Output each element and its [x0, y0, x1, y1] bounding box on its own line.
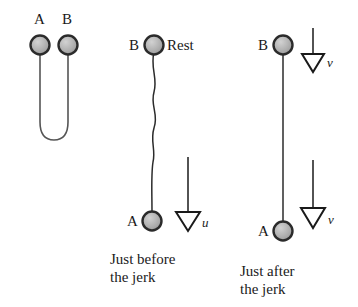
ball-a-middle — [143, 212, 162, 231]
physics-jerk-diagram: A B B Rest A u Just before the jerk B v … — [0, 0, 358, 307]
folded-string — [40, 46, 68, 140]
velocity-arrow-v-lower — [301, 160, 325, 228]
ball-b-right — [274, 36, 293, 55]
left-panel-group — [31, 36, 78, 141]
label-ball-a-left: A — [34, 12, 45, 27]
right-panel-group — [274, 28, 326, 241]
velocity-arrow-v-upper — [302, 28, 324, 72]
caption-just-after-the-jerk: Just after the jerk — [240, 262, 295, 299]
arrow-head-u — [176, 212, 200, 231]
label-rest-state: Rest — [167, 38, 194, 53]
label-ball-a-right: A — [258, 224, 269, 239]
label-ball-a-middle: A — [127, 214, 138, 229]
caption-just-before-the-jerk: Just before the jerk — [110, 250, 175, 287]
label-ball-b-right: B — [258, 38, 268, 53]
ball-b-middle — [145, 36, 164, 55]
ball-a-left — [31, 36, 50, 55]
ball-b-left — [59, 36, 78, 55]
label-velocity-v-upper: v — [327, 56, 333, 69]
velocity-arrow-u — [176, 157, 200, 231]
arrow-head-v-upper — [302, 54, 324, 72]
label-ball-b-left: B — [62, 12, 72, 27]
label-velocity-u: u — [202, 216, 209, 229]
label-ball-b-middle: B — [129, 38, 139, 53]
arrow-head-v-lower — [301, 208, 325, 228]
ball-a-right — [274, 222, 293, 241]
wavy-slack-string — [152, 52, 156, 214]
label-velocity-v-lower: v — [328, 213, 334, 226]
middle-panel-group — [143, 36, 201, 232]
